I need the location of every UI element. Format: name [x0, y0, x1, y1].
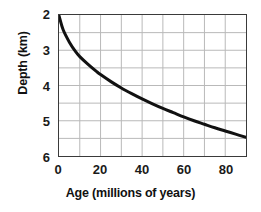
plot-area: [58, 14, 247, 157]
x-axis-title: Age (millions of years): [0, 186, 261, 200]
x-tick-label: 80: [213, 163, 239, 176]
y-tick-label: 4: [36, 80, 50, 93]
x-tick-label: 20: [87, 163, 113, 176]
x-tick-label: 0: [45, 163, 71, 176]
y-tick-label: 3: [36, 44, 50, 57]
y-tick-label: 5: [36, 115, 50, 128]
x-tick-label: 40: [129, 163, 155, 176]
depth-age-curve: [59, 15, 246, 156]
x-tick-label: 60: [171, 163, 197, 176]
chart-figure: 23456 020406080 Depth (km) Age (millions…: [0, 0, 261, 212]
y-axis-title: Depth (km): [16, 15, 30, 111]
y-tick-label: 2: [36, 8, 50, 21]
